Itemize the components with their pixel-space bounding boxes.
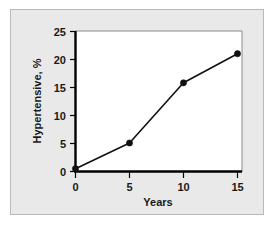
y-tick-label-5: 5 <box>60 138 66 150</box>
plot-area-background <box>75 31 242 172</box>
x-tick-label-0: 0 <box>72 181 78 193</box>
y-tick-label-0: 0 <box>60 166 66 178</box>
line-chart: 25 20 15 10 5 0 0 5 10 15 Years Hyperten… <box>0 0 278 230</box>
figure-root: 25 20 15 10 5 0 0 5 10 15 Years Hyperten… <box>0 0 278 230</box>
y-axis-title: Hypertensive, % <box>31 58 43 143</box>
x-tick-label-10: 10 <box>177 181 189 193</box>
y-tick-label-10: 10 <box>54 110 66 122</box>
y-tick-label-20: 20 <box>54 54 66 66</box>
x-tick-label-5: 5 <box>126 181 132 193</box>
y-axis-ticks <box>70 32 75 172</box>
x-axis-ticks <box>76 172 238 178</box>
data-point-10 <box>180 80 186 86</box>
y-axis-tick-labels: 25 20 15 10 5 0 <box>54 26 66 178</box>
x-tick-label-15: 15 <box>231 181 243 193</box>
y-tick-label-15: 15 <box>54 82 66 94</box>
y-tick-label-25: 25 <box>54 26 66 38</box>
x-axis-title: Years <box>143 196 172 208</box>
data-point-5 <box>126 140 132 146</box>
data-point-0 <box>72 166 78 172</box>
x-axis-tick-labels: 0 5 10 15 <box>72 181 243 193</box>
data-point-15 <box>234 51 240 57</box>
